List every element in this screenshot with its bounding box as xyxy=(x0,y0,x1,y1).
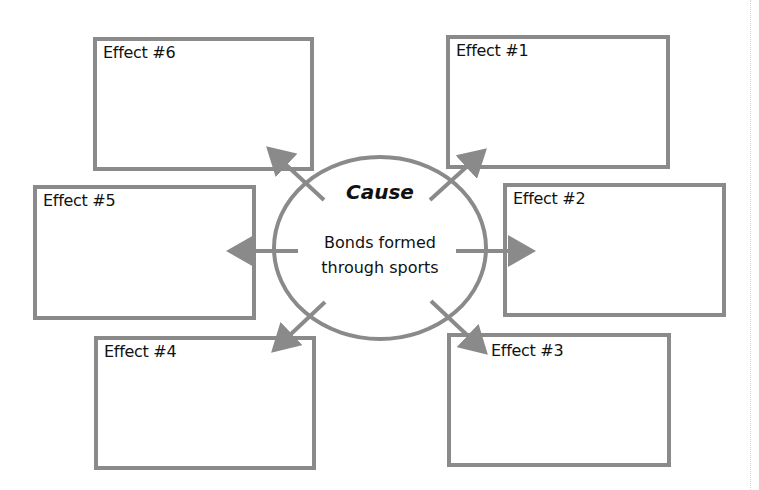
cause-description: Bonds formed through sports xyxy=(300,230,460,280)
cause-effect-diagram: Effect #6 Effect #1 Effect #5 Effect #2 … xyxy=(0,0,759,490)
cause-title: Cause xyxy=(320,180,440,204)
cause-text-line-2: through sports xyxy=(300,255,460,280)
cause-text-line-1: Bonds formed xyxy=(300,230,460,255)
